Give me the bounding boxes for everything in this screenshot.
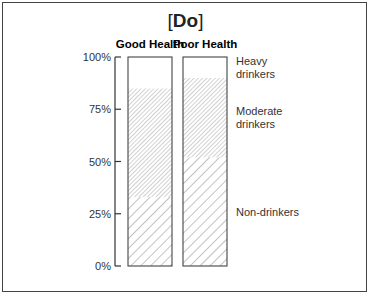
series-label-line: drinkers [236, 118, 276, 130]
series-label-line: Heavy [236, 55, 268, 67]
bar-segment-heavy-drinkers [183, 57, 227, 78]
series-label: Moderatedrinkers [236, 105, 282, 130]
y-tick-label: 50% [89, 156, 111, 168]
series-label-line: Moderate [236, 105, 282, 117]
y-tick-label: 0% [95, 260, 111, 272]
category-label: Poor Health [173, 38, 238, 50]
series-label-line: Non-drinkers [236, 206, 299, 218]
y-axis: 0%25%50%75%100% [83, 51, 121, 272]
series-label-line: drinkers [236, 68, 276, 80]
bar-segment-non-drinkers [128, 197, 172, 266]
bar-segment-non-drinkers [183, 157, 227, 266]
labels: Non-drinkersModeratedrinkersHeavydrinker… [236, 55, 299, 218]
y-tick-label: 100% [83, 51, 111, 63]
y-tick-label: 25% [89, 208, 111, 220]
series-label: Non-drinkers [236, 206, 299, 218]
bar-segment-heavy-drinkers [128, 57, 172, 88]
series-label: Heavydrinkers [236, 55, 276, 80]
bars: Good HealthPoor Health [116, 38, 237, 266]
y-tick-label: 75% [89, 103, 111, 115]
bar-segment-moderate-drinkers [128, 88, 172, 197]
bar-segment-moderate-drinkers [183, 78, 227, 157]
